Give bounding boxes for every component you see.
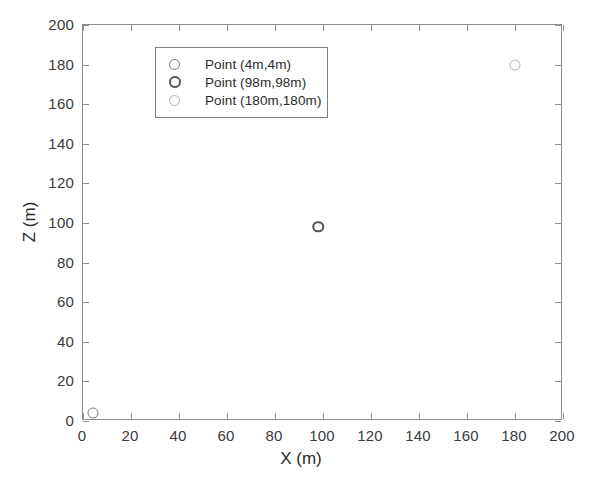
y-tick-left-4 [83,263,89,264]
x-tick-label-1: 20 [121,427,138,444]
y-tick-left-0 [83,421,89,422]
x-tick-top-4 [275,25,276,31]
y-tick-right-7 [555,144,561,145]
y-tick-right-0 [555,421,561,422]
legend-circle-icon [169,95,180,106]
x-tick-bottom-6 [371,413,372,419]
x-tick-label-7: 140 [405,427,431,444]
y-tick-left-2 [83,342,89,343]
y-tick-left-9 [83,65,89,66]
x-tick-label-9: 180 [501,427,527,444]
x-tick-top-10 [563,25,564,31]
legend-circle-icon [169,76,181,88]
legend-label: Point (180m,180m) [205,93,322,108]
y-tick-left-3 [83,302,89,303]
data-point-marker [87,408,98,419]
data-point-marker [312,221,324,233]
y-tick-right-8 [555,104,561,105]
x-tick-bottom-3 [227,413,228,419]
y-tick-label-6: 120 [24,174,74,191]
legend-entry[interactable]: Point (180m,180m) [156,91,327,109]
x-tick-top-8 [467,25,468,31]
y-tick-left-5 [83,223,89,224]
x-tick-bottom-2 [179,413,180,419]
figure-canvas: 020406080100120140160180200 020406080100… [0,0,602,487]
y-tick-right-5 [555,223,561,224]
legend-marker-cell [169,76,205,88]
legend-entry[interactable]: Point (98m,98m) [156,73,327,91]
x-tick-top-1 [131,25,132,31]
legend-label: Point (98m,98m) [205,75,306,90]
x-tick-bottom-9 [515,413,516,419]
legend-marker-cell [169,59,205,70]
y-tick-right-2 [555,342,561,343]
y-tick-right-3 [555,302,561,303]
x-tick-label-5: 100 [309,427,335,444]
y-tick-label-1: 20 [24,372,74,389]
y-axis-title: Z (m) [20,202,40,243]
y-tick-left-7 [83,144,89,145]
y-tick-right-10 [555,25,561,26]
x-tick-bottom-0 [83,413,84,419]
x-tick-label-4: 80 [265,427,282,444]
x-tick-label-6: 120 [357,427,383,444]
x-tick-top-6 [371,25,372,31]
x-tick-bottom-5 [323,413,324,419]
x-tick-bottom-7 [419,413,420,419]
x-tick-label-8: 160 [453,427,479,444]
y-tick-label-10: 200 [24,16,74,33]
y-tick-right-9 [555,65,561,66]
legend-label: Point (4m,4m) [205,57,291,72]
x-tick-bottom-10 [563,413,564,419]
y-tick-label-2: 40 [24,332,74,349]
x-tick-bottom-8 [467,413,468,419]
y-tick-left-10 [83,25,89,26]
legend-marker-cell [169,95,205,106]
x-axis-title: X (m) [0,449,602,469]
x-tick-label-2: 40 [169,427,186,444]
y-tick-label-4: 80 [24,253,74,270]
legend-entry[interactable]: Point (4m,4m) [156,55,327,73]
x-tick-bottom-4 [275,413,276,419]
y-tick-label-9: 180 [24,55,74,72]
x-tick-bottom-1 [131,413,132,419]
y-tick-right-1 [555,381,561,382]
y-tick-left-1 [83,381,89,382]
x-tick-label-3: 60 [217,427,234,444]
x-tick-top-3 [227,25,228,31]
x-tick-top-2 [179,25,180,31]
y-tick-label-7: 140 [24,134,74,151]
data-point-marker [510,59,521,70]
x-tick-top-9 [515,25,516,31]
y-tick-label-8: 160 [24,95,74,112]
legend-circle-icon [169,59,180,70]
legend-box: Point (4m,4m)Point (98m,98m)Point (180m,… [155,47,328,118]
x-tick-label-10: 200 [549,427,575,444]
y-tick-left-6 [83,183,89,184]
y-tick-left-8 [83,104,89,105]
y-tick-right-4 [555,263,561,264]
x-tick-top-5 [323,25,324,31]
y-tick-right-6 [555,183,561,184]
x-tick-top-7 [419,25,420,31]
y-tick-label-0: 0 [24,412,74,429]
x-tick-label-0: 0 [78,427,87,444]
y-tick-label-3: 60 [24,293,74,310]
